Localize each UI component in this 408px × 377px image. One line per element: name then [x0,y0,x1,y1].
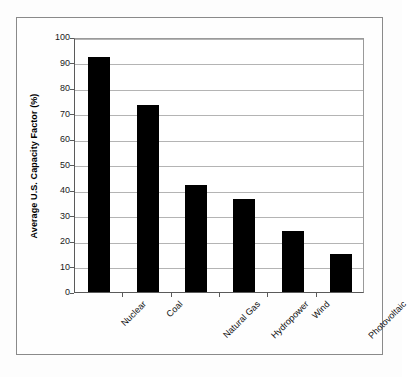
x-axis-tick-mark [267,293,268,297]
y-axis-tick-mark [70,89,74,90]
y-axis-tick-label: 20 [60,237,70,246]
y-axis-tick-mark [70,216,74,217]
plot-area [74,38,364,293]
y-axis-tick-labels: 0102030405060708090100 [40,0,70,377]
bar [330,254,352,292]
y-axis-tick-mark [70,165,74,166]
gridline [75,243,363,244]
bar [137,105,159,292]
y-axis-label: Average U.S. Capacity Factor (%) [29,93,39,238]
bar [88,57,110,292]
gridline [75,268,363,269]
bar [282,231,304,292]
gridline [75,141,363,142]
y-axis-tick-mark [70,140,74,141]
x-axis-tick-mark [316,293,317,297]
y-axis-tick-mark [70,63,74,64]
y-axis-tick-label: 10 [60,263,70,272]
y-axis-tick-label: 100 [55,33,70,42]
y-axis-tick-label: 30 [60,212,70,221]
gridline [75,39,363,40]
y-axis-tick-label: 40 [60,186,70,195]
gridline [75,90,363,91]
gridline [75,217,363,218]
y-axis-tick-mark [70,38,74,39]
y-axis-tick-label: 70 [60,110,70,119]
y-axis-tick-mark [70,191,74,192]
gridline [75,115,363,116]
bar [233,199,255,292]
x-axis-tick-mark [122,293,123,297]
y-axis-tick-mark [70,114,74,115]
y-axis-tick-label: 50 [60,161,70,170]
y-axis-tick-mark [70,267,74,268]
y-axis-tick-label: 90 [60,59,70,68]
gridline [75,166,363,167]
y-axis-tick-label: 80 [60,84,70,93]
bar [185,185,207,292]
gridline [75,64,363,65]
y-axis-tick-mark [70,293,74,294]
y-axis-tick-label: 60 [60,135,70,144]
gridline [75,192,363,193]
x-axis-tick-mark [171,293,172,297]
y-axis-tick-mark [70,242,74,243]
x-axis-tick-mark [219,293,220,297]
